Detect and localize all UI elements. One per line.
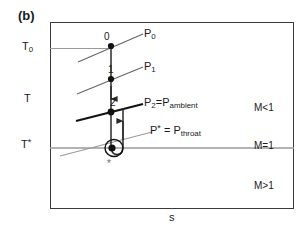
y-tick-label-Tstar: T* [21,138,31,150]
state-point-throat-marker [108,144,115,151]
figure-root: (b) [0,0,306,233]
state-point-1-label: 1 [108,64,114,75]
state-point-2-marker [108,109,115,116]
mach-region-sonic-label: M=1 [254,140,274,151]
x-axis-title: s [169,211,175,223]
state-point-2-label: 2 [110,97,116,108]
isobar-Pstar-label: P* = Pthroat [150,124,201,136]
state-point-0-label: 0 [104,31,110,42]
state-point-1-marker [108,76,114,82]
isobar-P2-label: P2=Pambient [144,96,198,108]
y-axis-title: T [24,92,31,104]
mach-region-supersonic-label: M>1 [254,180,274,191]
state-point-0-marker [108,43,114,49]
state-point-throat-label: * [107,158,111,169]
mach-region-subsonic-label: M<1 [254,102,274,113]
isobar-P1-label: P1 [144,60,156,72]
isobar-P0-label: P0 [144,27,156,39]
y-tick-label-T0: T0 [22,40,33,52]
